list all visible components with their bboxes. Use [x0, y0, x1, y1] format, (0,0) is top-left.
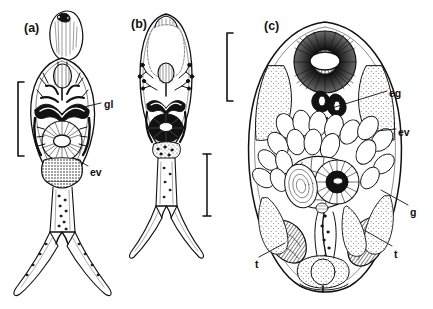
panel-letter-b: (b)	[131, 18, 147, 31]
annotation-g: g	[410, 207, 416, 218]
annotation-gl: gl	[104, 99, 113, 110]
figure-panel-plate: (a) (b) (c) gl ev eg ev g t t	[0, 0, 433, 309]
annotation-eg: eg	[389, 88, 401, 99]
annotation-ev-panel-a: ev	[90, 167, 102, 178]
panel-a-artwork	[14, 11, 111, 296]
figure-artwork	[0, 0, 433, 309]
scale-bar-panel-b	[203, 154, 211, 216]
panel-c-artwork	[249, 22, 402, 292]
annotation-t-right: t	[394, 249, 398, 260]
scale-bar-panel-a	[18, 82, 24, 156]
annotation-t-left: t	[255, 259, 259, 270]
panel-letter-a: (a)	[24, 22, 39, 35]
panel-b-artwork	[130, 14, 204, 258]
panel-letter-c: (c)	[264, 20, 279, 33]
annotation-ev-panel-c: ev	[398, 127, 410, 138]
scale-bar-panel-c	[227, 33, 233, 101]
